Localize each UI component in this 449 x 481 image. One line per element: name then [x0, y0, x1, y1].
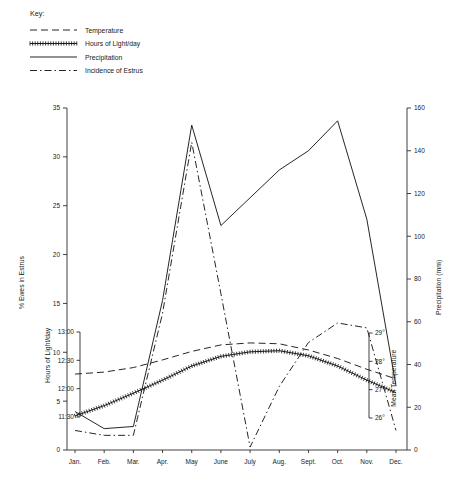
legend-label-0: Temperature	[85, 27, 123, 35]
left-axis-tick-label: 5	[56, 398, 60, 405]
light-axis-title: Hours of Light/day	[44, 327, 52, 383]
x-axis-month-label: May	[186, 458, 199, 466]
light-axis-tick-label: 12:00	[58, 385, 75, 392]
left-axis-tick-label: 10	[53, 349, 61, 356]
series-line-3	[75, 343, 396, 379]
x-axis-month-label: Oct.	[332, 458, 344, 465]
x-axis-month-label: Apr.	[157, 458, 169, 466]
temp-axis-tick-label: 29°	[375, 329, 385, 336]
left-axis-tick-label: 20	[53, 251, 61, 258]
right-axis-tick-label: 100	[414, 233, 425, 240]
right-axis-tick-label: 20	[414, 404, 422, 411]
x-axis-month-label: June	[214, 458, 228, 465]
left-axis-tick-label: 35	[53, 104, 61, 111]
x-axis-month-label: Sept.	[301, 458, 316, 466]
legend-title: Key:	[30, 9, 44, 18]
series-crosshatch-2	[74, 349, 394, 418]
light-axis-tick-label: 13:00	[58, 328, 75, 335]
left-axis-title: % Ewes in Estrus	[18, 256, 25, 309]
right-axis-tick-label: 80	[414, 275, 422, 282]
right-axis-tick-label: 0	[414, 446, 418, 453]
x-axis-month-label: Nov.	[360, 458, 373, 465]
light-axis-tick-label: 12:30	[58, 357, 75, 364]
x-axis-month-label: Dec.	[389, 458, 403, 465]
right-axis-tick-label: 120	[414, 190, 425, 197]
x-axis-month-label: July	[244, 458, 256, 466]
right-axis-tick-label: 140	[414, 147, 425, 154]
legend-label-1: Hours of Light/day	[85, 40, 141, 48]
x-axis-month-label: Feb.	[98, 458, 111, 465]
light-axis-tick-label: 11:30	[58, 413, 74, 420]
x-axis-month-label: Jan.	[69, 458, 81, 465]
right-axis-title: Precipitation (mm)	[435, 260, 443, 315]
chart-root: 05101520253035% Ewes in Estrus0204060801…	[0, 0, 449, 481]
x-axis-month-label: Aug.	[273, 458, 287, 466]
series-line-0	[75, 142, 396, 447]
right-axis-tick-label: 160	[414, 104, 425, 111]
left-axis-tick-label: 30	[53, 153, 61, 160]
series-line-2	[75, 351, 396, 416]
x-axis-month-label: Mar.	[127, 458, 140, 465]
left-axis-tick-label: 15	[53, 300, 61, 307]
right-axis-tick-label: 40	[414, 361, 422, 368]
left-axis-tick-label: 0	[56, 446, 60, 453]
climate-estrus-line-chart: 05101520253035% Ewes in Estrus0204060801…	[0, 0, 449, 481]
legend-label-3: Incidence of Estrus	[85, 67, 143, 74]
left-axis-tick-label: 25	[53, 202, 61, 209]
legend-label-2: Precipitation	[85, 54, 123, 62]
series-line-1	[75, 121, 396, 429]
temp-axis-tick-label: 26°	[375, 414, 385, 421]
legend-swatch-1	[30, 41, 77, 45]
axis-frame	[67, 108, 407, 450]
right-axis-tick-label: 60	[414, 318, 422, 325]
